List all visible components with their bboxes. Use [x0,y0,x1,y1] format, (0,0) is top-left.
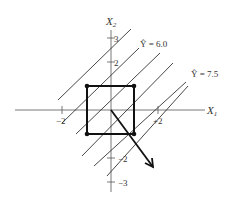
contour-label-7-5: Ŷ = 7.5 [191,69,219,79]
tick-label-x-pos2: +2 [153,116,163,126]
response-surface-diagram: X1 X2 −2 +2 3 2 −2 −3 Ŷ = 6.0 Ŷ = 7.5 [0,0,230,206]
tick-label-y-pos3: 3 [114,34,119,44]
y-axis-label: X2 [105,15,117,29]
tick-label-y-neg3: −3 [118,178,128,188]
contour-line [94,82,186,166]
contour-line [58,29,131,100]
tick-label-y-pos2: 2 [114,58,119,68]
contour-line [82,63,173,156]
tick-label-y-neg2: −2 [118,154,128,164]
x-axis-label: X1 [206,104,217,118]
contour-label-6: Ŷ = 6.0 [140,39,168,49]
tick-label-x-neg2: −2 [56,116,66,126]
